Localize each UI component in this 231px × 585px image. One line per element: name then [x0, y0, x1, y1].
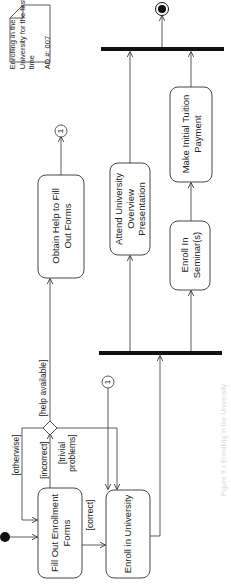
label-enroll-university: Enroll in University: [122, 495, 134, 574]
guard-correct: [correct]: [85, 500, 95, 531]
note-line-1: Enrolling in the: [8, 0, 18, 69]
connector-out-label: 1: [56, 129, 66, 133]
label-fill-out-forms: Fill Out Enrollment Forms: [49, 494, 72, 572]
guard-incorrect: [incorrect]: [39, 441, 49, 478]
note-id: AD #: 007: [43, 0, 53, 69]
label-enroll-seminars: Enroll In Seminar(s): [179, 232, 202, 278]
flow-enroll-to-fork: [150, 356, 160, 536]
join-bar: [101, 47, 224, 51]
note-line-2: University for the first: [18, 0, 28, 69]
fork-bar: [99, 351, 222, 355]
label-tuition-payment: Make Initial Tuition Payment: [180, 95, 203, 174]
figure-caption: Figure 9.x Enrolling in the University: [219, 384, 229, 496]
note-line-3: time: [27, 0, 37, 69]
connector-in-label: 1: [103, 380, 113, 384]
label-obtain-help: Obtain Help to Fill Out Forms: [50, 188, 73, 264]
activity-diagram-canvas: [0, 0, 231, 585]
initial-node: [0, 532, 10, 542]
guard-trivial-problems: [trivial problems]: [57, 434, 77, 471]
final-node: [156, 3, 169, 16]
label-attend-overview: Attend University Overview Presentation: [113, 173, 148, 245]
guard-otherwise: [otherwise]: [11, 434, 21, 475]
decision-diamond: [43, 421, 57, 435]
note-text: Enrolling in the University for the firs…: [8, 0, 52, 69]
guard-help-available: [help available]: [38, 360, 48, 417]
